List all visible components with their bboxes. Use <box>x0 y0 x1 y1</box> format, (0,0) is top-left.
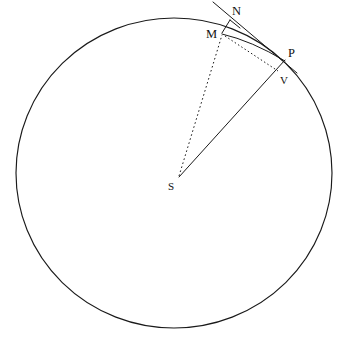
segment-m-to-n <box>222 20 230 33</box>
point-label-m: M <box>206 27 217 41</box>
tangent-line <box>213 2 297 73</box>
point-label-p: P <box>288 46 295 60</box>
radius-s-to-m <box>179 35 222 176</box>
radius-s-to-p <box>179 60 285 177</box>
chord-m-to-v <box>225 36 278 71</box>
point-label-n: N <box>232 4 241 18</box>
segment-m-to-p <box>222 34 285 61</box>
main-circle <box>16 18 332 328</box>
point-label-v: V <box>280 74 288 86</box>
geometry-diagram: M N P V S <box>0 0 345 341</box>
point-label-s: S <box>168 180 174 192</box>
diagram-canvas: M N P V S <box>0 0 345 341</box>
